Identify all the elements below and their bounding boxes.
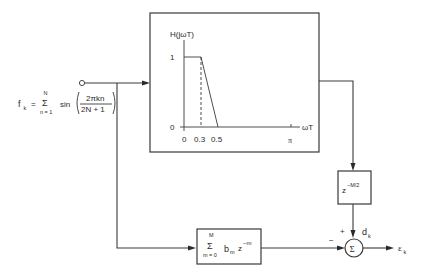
fir-filter-block: M Σ m = 0 b m z −m (197, 229, 261, 264)
input-f-subscript: k (24, 105, 27, 111)
ideal-filter-block: H(jωT) 1 0 0 0.3 0.5 π ωT (150, 13, 319, 152)
left-paren-icon (77, 92, 79, 114)
fir-sum-upper: M (209, 232, 214, 238)
output-signal: ε k (398, 243, 407, 255)
input-sin: sin (60, 100, 70, 109)
x-axis-label: ωT (302, 123, 313, 132)
fir-sum-lower: m = 0 (203, 252, 217, 258)
input-frac-denominator: 2N + 1 (81, 105, 105, 114)
delay-base: z (342, 186, 346, 195)
input-f-label: f (18, 99, 21, 109)
summer-symbol: Σ (350, 244, 355, 254)
input-terminal-icon (79, 80, 84, 85)
plus-sign: + (340, 227, 345, 236)
y-axis-label: H(jωT) (170, 30, 194, 39)
input-equals: = (31, 100, 36, 109)
input-sum-upper: N (44, 90, 48, 96)
delay-block: z −M/2 (338, 171, 371, 204)
x-tick-pi: π (288, 136, 292, 145)
x-tick-0-5: 0.5 (211, 135, 223, 144)
delay-exponent: −M/2 (347, 182, 359, 188)
input-frac-numerator: 2πkn (86, 94, 104, 103)
d-subscript: k (368, 233, 371, 239)
block-diagram: f k = N Σ n = 1 sin 2πkn 2N + 1 H(jωT) 1 (0, 0, 427, 277)
x-tick-0: 0 (182, 135, 187, 144)
minus-sign: − (329, 236, 334, 245)
fir-sum-symbol: Σ (207, 241, 213, 251)
arrow-right-icon (142, 81, 150, 86)
arrow-down-icon (351, 163, 356, 171)
arrow-down-icon (351, 230, 356, 238)
x-tick-0-3: 0.3 (194, 135, 206, 144)
y-tick-0: 0 (170, 123, 175, 132)
fir-base: z (238, 244, 242, 253)
fir-coef: b (224, 244, 229, 254)
fir-exponent: −m (243, 240, 252, 246)
arrow-right-icon (337, 246, 345, 251)
y-tick-1: 1 (170, 53, 175, 62)
fir-coef-sub: m (230, 249, 235, 255)
arrow-right-icon (386, 246, 394, 251)
input-sum-lower: n = 1 (40, 109, 52, 115)
output-subscript: k (404, 249, 407, 255)
summing-junction: Σ + − d k (329, 227, 371, 257)
d-label: d (362, 227, 367, 237)
input-sum-symbol: Σ (42, 98, 48, 108)
arrow-right-icon (188, 246, 196, 251)
output-epsilon: ε (398, 243, 402, 253)
right-paren-icon (113, 92, 115, 114)
filter-to-delay-line (319, 81, 353, 166)
input-signal: f k = N Σ n = 1 sin 2πkn 2N + 1 (18, 80, 115, 115)
